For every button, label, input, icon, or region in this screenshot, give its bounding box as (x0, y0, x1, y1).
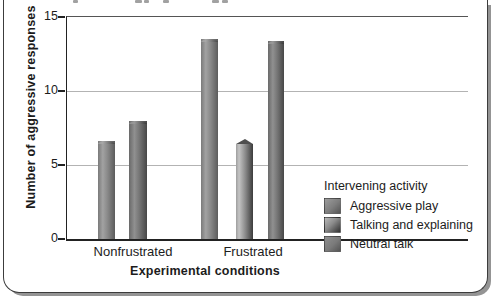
y-tick-mark-5 (58, 164, 65, 166)
category-label-frustrated: Frustrated (223, 244, 282, 259)
category-label-nonfrustrated: Nonfrustrated (94, 244, 173, 259)
bar-frustrated-neutral-talk (268, 41, 284, 239)
legend-item-aggressive-play: Aggressive play (324, 197, 473, 215)
x-axis-title: Experimental conditions (66, 264, 344, 278)
legend-item-neutral-talk: Neutral talk (324, 235, 473, 253)
legend-title: Intervening activity (324, 179, 473, 193)
legend-swatch-talking-and-explaining (324, 217, 341, 233)
y-tick-mark-10 (58, 90, 65, 92)
legend-swatch-aggressive-play (324, 198, 341, 214)
bar-frustrated-talking-and-explaining (236, 144, 253, 239)
y-tick-mark-0 (58, 238, 65, 240)
y-tick-label-10: 10 (30, 82, 58, 98)
y-tick-label-5: 5 (30, 156, 58, 172)
bar-nonfrustrated-aggressive-play (98, 141, 115, 239)
bar-nonfrustrated-neutral-talk (129, 121, 147, 239)
legend-label: Aggressive play (350, 199, 438, 213)
legend-swatch-neutral-talk (324, 236, 341, 252)
y-tick-label-0: 0 (30, 230, 58, 246)
bar-frustrated-aggressive-play (201, 39, 218, 239)
legend: Intervening activity Aggressive playTalk… (324, 179, 473, 254)
legend-label: Neutral talk (350, 237, 413, 251)
legend-label: Talking and explaining (350, 218, 473, 232)
legend-item-talking-and-explaining: Talking and explaining (324, 216, 473, 234)
figure-card: Number of aggressive responses 051015 No… (3, 0, 488, 293)
y-tick-mark-15 (58, 16, 65, 18)
y-axis-tick-labels: 051015 (30, 16, 58, 238)
y-tick-label-15: 15 (30, 8, 58, 24)
